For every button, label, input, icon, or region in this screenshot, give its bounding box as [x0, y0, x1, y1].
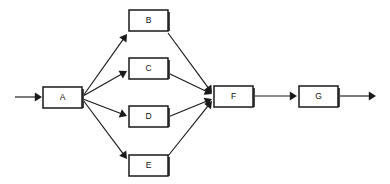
flow-diagram: ABCDEFG: [0, 0, 390, 184]
node-F[interactable]: F: [214, 86, 255, 107]
edge-A-E: [83, 100, 127, 159]
arrowhead-icon: [119, 151, 127, 159]
edge-G-out: [339, 92, 376, 101]
edge-line: [83, 74, 122, 96]
node-D[interactable]: D: [129, 106, 170, 127]
edge-line: [83, 99, 121, 114]
flow-diagram-canvas: ABCDEFG: [0, 0, 390, 184]
edge-D-F: [168, 98, 212, 117]
node-label: A: [60, 92, 66, 102]
arrowhead-icon: [119, 34, 127, 42]
edge-F-G: [254, 92, 297, 101]
arrowhead-icon: [369, 92, 376, 101]
node-label: G: [315, 91, 322, 101]
node-G[interactable]: G: [299, 86, 340, 107]
node-label: B: [146, 15, 152, 25]
arrowhead-icon: [35, 93, 42, 102]
edge-E-F: [168, 101, 212, 156]
edge-line: [168, 73, 207, 91]
node-label: C: [145, 63, 151, 73]
node-A[interactable]: A: [43, 87, 84, 108]
edge-in-A: [15, 93, 42, 102]
edge-line: [168, 106, 208, 156]
edge-line: [168, 33, 208, 88]
edge-line: [83, 100, 123, 154]
node-C[interactable]: C: [129, 58, 170, 79]
edge-A-B: [83, 34, 127, 96]
node-label: E: [146, 160, 152, 170]
edge-A-C: [83, 71, 127, 96]
node-B[interactable]: B: [129, 10, 170, 31]
arrowhead-icon: [290, 92, 297, 101]
node-E[interactable]: E: [129, 155, 170, 176]
edge-line: [83, 39, 124, 96]
node-label: D: [145, 111, 151, 121]
node-label: F: [231, 91, 236, 101]
